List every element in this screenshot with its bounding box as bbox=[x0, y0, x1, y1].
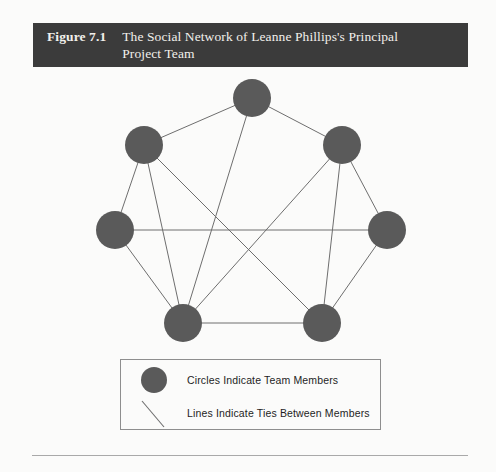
network-node bbox=[303, 304, 341, 342]
legend-label-lines: Lines Indicate Ties Between Members bbox=[187, 407, 370, 419]
network-node bbox=[233, 79, 271, 117]
legend-item-lines: Lines Indicate Ties Between Members bbox=[121, 398, 380, 428]
legend-box: Circles Indicate Team Members Lines Indi… bbox=[120, 359, 381, 430]
network-node bbox=[323, 126, 361, 164]
network-edge bbox=[183, 98, 252, 323]
footer-divider bbox=[32, 455, 468, 456]
legend-item-circles: Circles Indicate Team Members bbox=[121, 364, 380, 396]
legend-line-swatch bbox=[121, 398, 187, 428]
legend-label-circles: Circles Indicate Team Members bbox=[187, 374, 338, 386]
figure-container: Figure 7.1 The Social Network of Leanne … bbox=[0, 0, 496, 472]
network-node bbox=[96, 211, 134, 249]
network-node bbox=[368, 211, 406, 249]
node-layer bbox=[96, 79, 406, 342]
network-edge bbox=[183, 145, 342, 323]
network-edge bbox=[144, 145, 322, 323]
network-node bbox=[164, 304, 202, 342]
legend-circle-swatch bbox=[121, 364, 187, 396]
network-node bbox=[125, 126, 163, 164]
network-edge bbox=[322, 145, 342, 323]
